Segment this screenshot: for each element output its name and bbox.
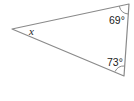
- angle-label-73: 73°: [107, 56, 123, 68]
- angle-arc-top-right: [119, 6, 128, 14]
- triangle-diagram: x 69° 73°: [0, 0, 134, 101]
- angle-label-69: 69°: [109, 14, 125, 26]
- angle-label-x: x: [28, 25, 34, 37]
